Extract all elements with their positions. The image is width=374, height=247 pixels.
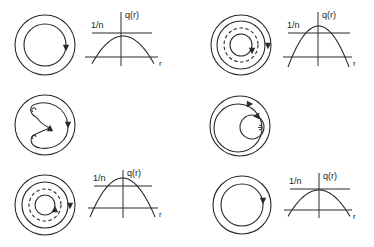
- hook-mark: [32, 108, 37, 112]
- flux-surface-ring: [230, 34, 252, 56]
- flux-surface-ring: [213, 176, 271, 234]
- flux-surface-diagram: [211, 15, 271, 75]
- q-profile-chart: 1/nq(r)r: [283, 10, 356, 68]
- flux-surface-diagram: [210, 96, 270, 156]
- q-profile-chart: 1/nq(r)r: [88, 168, 162, 219]
- inverse-n-label: 1/n: [289, 176, 302, 186]
- flux-surface-diagram: [213, 176, 271, 234]
- q-of-r-label: q(r): [323, 171, 337, 181]
- flux-surface-ring: [221, 184, 263, 226]
- q-of-r-label: q(r): [125, 10, 139, 20]
- diagram-canvas: 1/nq(r)r1/nq(r)r1/nq(r)r1/nq(r)r: [0, 0, 374, 247]
- inverse-n-label: 1/n: [287, 20, 300, 30]
- r-axis-label: r: [353, 212, 356, 221]
- arrowhead-icon: [265, 43, 271, 49]
- q-profile-chart: 1/nq(r)r: [85, 10, 162, 68]
- arrowhead-icon: [52, 206, 58, 212]
- q-of-r-label: q(r): [127, 168, 141, 178]
- flux-surface-ring: [211, 15, 271, 75]
- panel-row1-right: 1/nq(r)r: [211, 10, 356, 75]
- q-profile-curve: [92, 36, 154, 64]
- arrowhead-icon: [247, 101, 253, 107]
- panel-row2-left: [15, 95, 75, 155]
- flux-surface-diagram: [15, 95, 75, 155]
- panel-row1-left: 1/nq(r)r: [15, 10, 162, 75]
- arrowhead-icon: [260, 198, 266, 204]
- arrowhead-icon: [63, 45, 69, 51]
- q-of-r-label: q(r): [322, 10, 336, 20]
- arrowhead-icon: [65, 122, 71, 128]
- r-axis-label: r: [159, 210, 162, 219]
- q-profile-chart: 1/nq(r)r: [284, 171, 356, 221]
- panel-row3-left: 1/nq(r)r: [15, 168, 162, 235]
- resonant-surface-dashed: [29, 189, 61, 221]
- flux-surface-ring: [24, 24, 66, 66]
- inner-offset-surface: [240, 115, 264, 139]
- r-axis-label: r: [159, 59, 162, 68]
- arrowhead-icon: [253, 113, 259, 119]
- inverse-n-label: 1/n: [91, 20, 104, 30]
- resonant-surface-dashed: [224, 28, 258, 62]
- flux-surface-diagram: [15, 175, 75, 235]
- panel-row3-right: 1/nq(r)r: [213, 171, 356, 234]
- panel-row2-right: [210, 96, 270, 156]
- inverse-n-label: 1/n: [93, 173, 106, 183]
- arrowhead-icon: [47, 125, 53, 131]
- r-axis-label: r: [353, 59, 356, 68]
- flux-surface-ring: [15, 175, 75, 235]
- displaced-surface: [214, 104, 262, 152]
- flux-surface-diagram: [15, 15, 75, 75]
